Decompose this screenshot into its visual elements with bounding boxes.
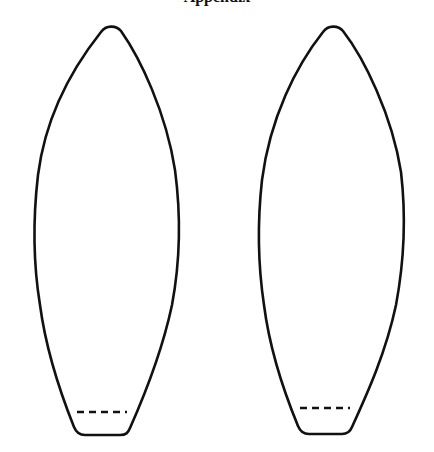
left-shape — [34, 27, 178, 435]
figure-canvas — [0, 0, 434, 452]
right-shape-outline — [259, 27, 404, 434]
right-shape — [259, 27, 404, 434]
left-shape-outline — [34, 27, 178, 435]
